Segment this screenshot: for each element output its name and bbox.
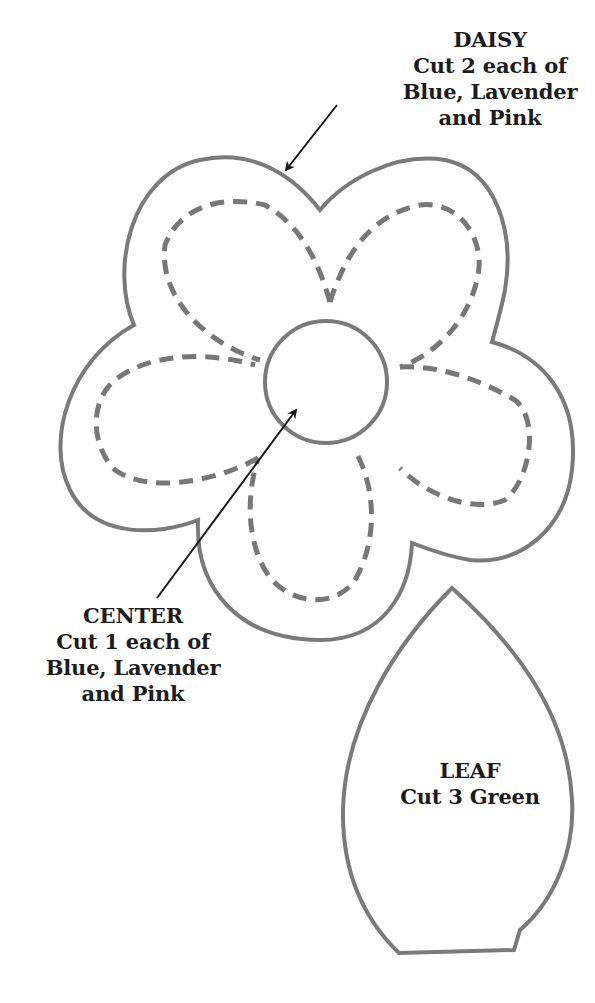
daisy-line-3: and Pink [385,105,595,131]
daisy-label: DAISY Cut 2 each of Blue, Lavender and P… [385,27,595,131]
leaf-line-1: Cut 3 Green [370,784,570,810]
leaf-title: LEAF [370,758,570,784]
center-line-2: Blue, Lavender [18,655,248,681]
daisy-line-1: Cut 2 each of [385,53,595,79]
daisy-title: DAISY [385,27,595,53]
center-line-1: Cut 1 each of [18,629,248,655]
center-circle [265,321,387,443]
daisy-arrow-icon [286,105,337,170]
daisy-line-2: Blue, Lavender [385,79,595,105]
center-label: CENTER Cut 1 each of Blue, Lavender and … [18,603,248,707]
pattern-drawing [0,0,595,1003]
center-line-3: and Pink [18,681,248,707]
leaf-label: LEAF Cut 3 Green [370,758,570,810]
daisy-stitch-lines [96,201,529,599]
daisy-outer-outline [60,157,573,640]
center-title: CENTER [18,603,248,629]
center-arrow-icon [157,410,296,598]
